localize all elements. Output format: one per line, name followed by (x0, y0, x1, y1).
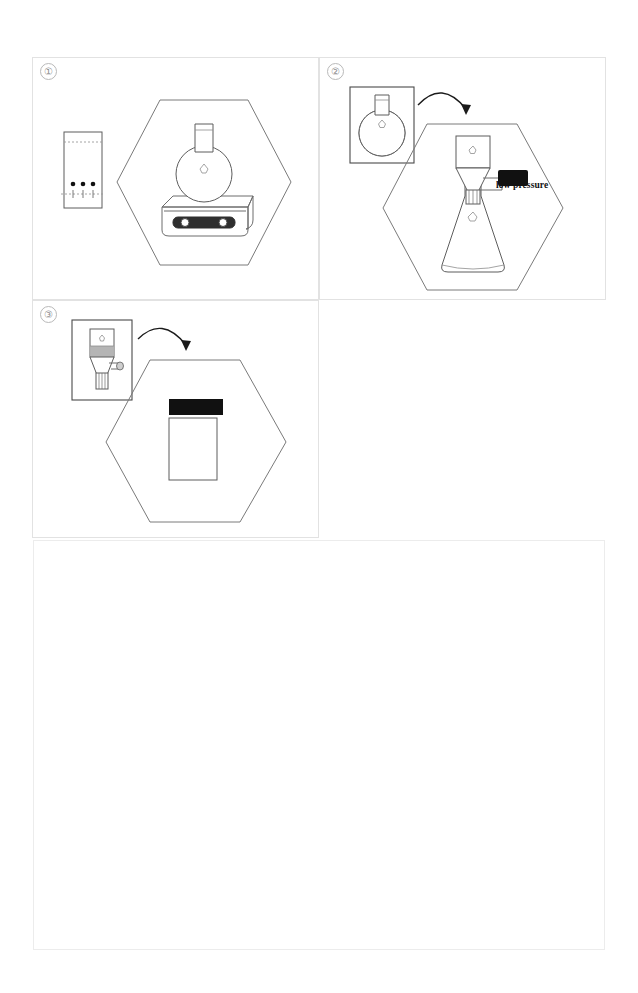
arrow-head (461, 104, 471, 115)
hexagon-scene-vial (103, 356, 289, 526)
hotplate-knob (219, 219, 227, 227)
figure-sheet: ① (0, 0, 638, 993)
tlc-spot (91, 182, 96, 187)
tlc-spot (81, 182, 86, 187)
funnel-cylinder (456, 136, 490, 168)
vial-cap (169, 399, 223, 415)
hexagon-scene-filtration (380, 120, 566, 295)
caption-area (33, 540, 605, 950)
arrow-curve (138, 328, 186, 345)
hexagon-scene-reaction (115, 90, 293, 275)
panel-product-collection: ③ (32, 300, 319, 538)
flask-neck (195, 124, 213, 152)
funnel-cone (456, 168, 490, 192)
panel-vacuum-filtration: ② (319, 57, 606, 300)
flask-neck (375, 95, 389, 115)
buchner-funnel (456, 136, 490, 204)
arrow-head (181, 340, 191, 351)
tlc-spot (71, 182, 76, 187)
low-pressure-label: low pressure (496, 180, 548, 190)
panel-number-2: ② (327, 63, 344, 80)
hotplate-knob (181, 219, 189, 227)
sample-vial (169, 399, 223, 480)
arrow-curve (418, 93, 466, 109)
panel-number-3: ③ (40, 306, 57, 323)
panel-reaction-setup: ① (32, 57, 319, 300)
panel-number-1: ① (40, 63, 57, 80)
vial-body (169, 418, 217, 480)
flask-bulb (176, 146, 232, 202)
tlc-plate (58, 128, 112, 218)
round-bottom-flask (176, 124, 232, 202)
